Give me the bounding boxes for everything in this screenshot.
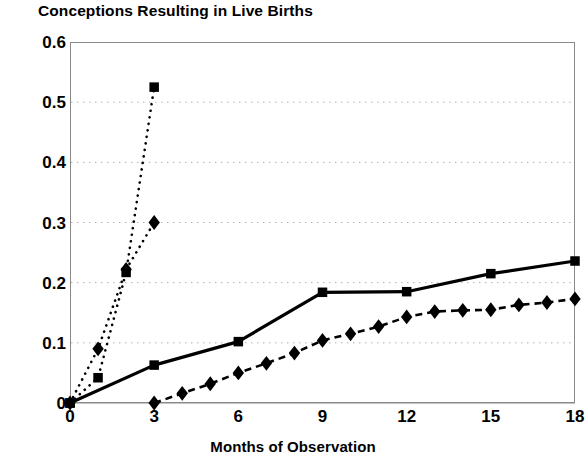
x-tick-label: 0 — [65, 408, 74, 425]
x-tick-label: 9 — [318, 408, 327, 425]
x-tick-label: 15 — [481, 408, 500, 425]
x-tick-label: 3 — [149, 408, 158, 425]
x-tick-label: 12 — [397, 408, 416, 425]
chart-root: Conceptions Resulting in Live Births 00.… — [0, 0, 586, 462]
x-tick-label: 18 — [566, 408, 585, 425]
x-tick-label: 6 — [234, 408, 243, 425]
x-axis-title: Months of Observation — [0, 438, 586, 455]
x-axis-tick-labels: 0369121518 — [0, 0, 586, 462]
